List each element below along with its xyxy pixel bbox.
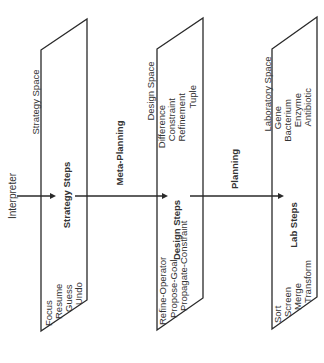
design-space-label: Design Space: [145, 61, 156, 120]
planning-layers-diagram: Interpreter Meta-Planning Planning Strat…: [0, 0, 324, 363]
strategy-space-label: Strategy Space: [30, 70, 41, 135]
meta-planning-arrow: [75, 193, 168, 199]
operator-undo: Undo: [73, 282, 84, 305]
planning-arrow: [190, 193, 284, 199]
object-antibiotic: Antibiotic: [302, 88, 313, 127]
operator-propagate-constraint: Propagate-Constraint: [178, 220, 189, 311]
operator-transform: Transform: [302, 260, 313, 303]
interpreter-label: Interpreter: [7, 172, 18, 219]
lab-steps-label: Lab Steps: [288, 202, 299, 247]
operator-refine-operator: Refine-Operator: [157, 257, 168, 325]
interpreter-arrow: [17, 193, 56, 199]
object-refinement: Refinement: [176, 93, 187, 142]
meta-planning-label: Meta-Planning: [114, 120, 125, 185]
object-tuple: Tuple: [187, 85, 198, 108]
planning-label: Planning: [229, 149, 240, 189]
strategy-steps-label: Strategy Steps: [61, 162, 72, 229]
